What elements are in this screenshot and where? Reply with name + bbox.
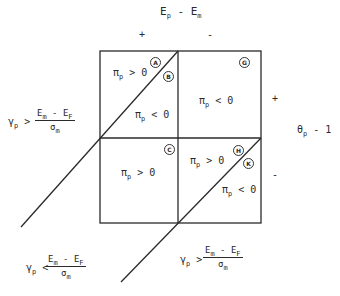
region-marker-k: K	[243, 158, 254, 169]
pi-relation: > 0	[137, 167, 155, 178]
gamma-sub: p	[14, 122, 18, 130]
region-text-ur: πp < 0	[199, 96, 233, 106]
region-marker-b: B	[163, 71, 174, 82]
pi-relation: < 0	[151, 109, 169, 120]
region-marker-h: H	[233, 145, 244, 156]
right-axis-rest: - 1	[313, 124, 331, 135]
top-axis-op: -	[177, 5, 184, 18]
top-axis-label: Ep - Em	[160, 6, 202, 17]
right-axis-label: θp - 1	[297, 125, 331, 135]
pi-sub: p	[205, 101, 209, 109]
condition-left-upper: γp >	[8, 117, 30, 127]
fraction-denominator: σm	[50, 121, 60, 132]
fraction-denominator: σm	[218, 258, 228, 269]
condition-left-lower-fraction: Em - EF σm	[46, 255, 86, 278]
top-axis-sub2: m	[197, 12, 201, 20]
fraction-numerator: Em - EF	[203, 246, 243, 258]
region-marker-a: A	[150, 57, 161, 68]
top-minus-sign: -	[207, 30, 213, 40]
top-plus-sign: +	[139, 30, 145, 40]
region-text-ll: πp > 0	[121, 168, 155, 178]
gamma-sub: p	[32, 268, 36, 276]
pi-sub: p	[228, 190, 232, 198]
region-text-ul-upper: πp > 0	[113, 68, 147, 78]
region-marker-g: G	[239, 57, 250, 68]
right-plus-sign: +	[272, 94, 278, 104]
region-text-lr-lower: πp < 0	[222, 185, 256, 195]
region-text-lr-upper: πp > 0	[190, 156, 224, 166]
condition-left-lower: γp <	[26, 263, 48, 273]
right-minus-sign: -	[272, 170, 278, 180]
pi-sub: p	[127, 173, 131, 181]
condition-relation: >	[24, 116, 30, 127]
region-text-ul-lower: πp < 0	[135, 110, 169, 120]
region-marker-c: C	[164, 144, 175, 155]
gamma-sub: p	[186, 260, 190, 268]
pi-relation: > 0	[129, 67, 147, 78]
pi-relation: < 0	[238, 184, 256, 195]
fraction-denominator: σm	[61, 267, 71, 278]
top-axis-base: E	[160, 5, 167, 18]
condition-relation: >	[196, 254, 202, 265]
pi-relation: > 0	[206, 155, 224, 166]
right-axis-sub: p	[303, 130, 307, 138]
fraction-numerator: Em - EF	[46, 255, 86, 267]
condition-left-upper-fraction: Em - EF σm	[35, 109, 75, 132]
fraction-numerator: Em - EF	[35, 109, 75, 121]
pi-relation: < 0	[215, 95, 233, 106]
pi-sub: p	[119, 73, 123, 81]
condition-bottom-right-fraction: Em - EF σm	[203, 246, 243, 269]
pi-sub: p	[196, 161, 200, 169]
top-axis-sub: p	[167, 12, 171, 20]
pi-sub: p	[141, 115, 145, 123]
condition-bottom-right: γp >	[180, 255, 202, 265]
